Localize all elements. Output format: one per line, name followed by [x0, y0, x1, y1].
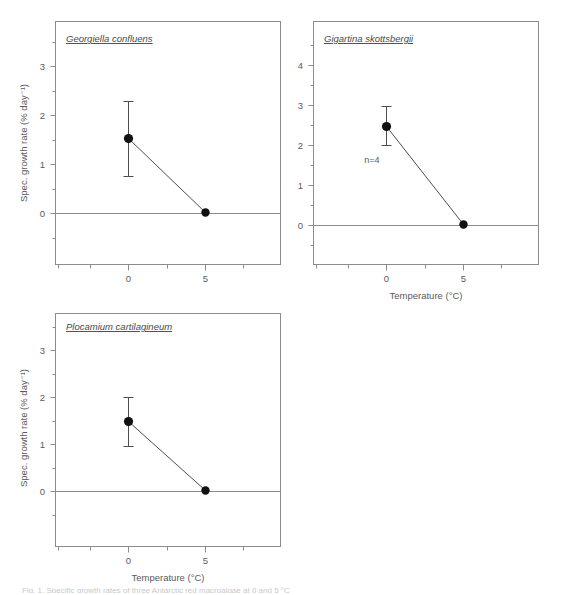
panel-georgiella-confluens: 0 1 2 3 0 5 Spec. growth rate (% day⁻¹) … [18, 22, 281, 285]
panel-b-yticklabel-2: 2 [298, 140, 303, 151]
panel-a-yticklabel-1: 1 [40, 159, 45, 170]
panel-c-yticklabel-2: 2 [40, 392, 45, 403]
panel-b-yticklabel-1: 1 [298, 180, 303, 191]
panel-b-yticklabel-4: 4 [298, 60, 303, 71]
panel-c-xticklabel-5: 5 [203, 555, 208, 566]
panel-a-datapoint-5 [201, 208, 209, 216]
panel-a-yticklabel-2: 2 [40, 110, 45, 121]
panel-a-datapoint-0 [124, 134, 133, 143]
panel-b-xaxis-title: Temperature (°C) [390, 290, 463, 301]
panel-b-yticklabel-0: 0 [298, 220, 303, 231]
panel-a-xticklabel-5: 5 [203, 273, 208, 284]
panel-a-yticklabel-0: 0 [40, 208, 45, 219]
panel-c-xticklabel-0: 0 [126, 555, 131, 566]
panel-c-yticklabel-3: 3 [40, 345, 45, 356]
panel-b-xticklabel-5: 5 [461, 273, 466, 284]
panel-c-title: Plocamium cartilagineum [66, 321, 172, 332]
panel-b-annotation-n: n=4 [364, 155, 379, 165]
panel-gigartina-skottsbergii: 0 1 2 3 4 0 5 Temperature (°C) Gigartina… [298, 22, 539, 302]
panel-c-yticklabel-1: 1 [40, 439, 45, 450]
panel-a-title: Georgiella confluens [66, 33, 153, 44]
figure-canvas: 0 1 2 3 0 5 Spec. growth rate (% day⁻¹) … [0, 0, 564, 595]
panel-c-frame [56, 314, 281, 547]
panel-c-datapoint-0 [124, 417, 133, 426]
panel-b-yticklabel-3: 3 [298, 100, 303, 111]
panel-a-yaxis-title: Spec. growth rate (% day⁻¹) [18, 84, 29, 202]
panel-a-frame [56, 22, 281, 265]
panel-a-xticklabel-0: 0 [126, 273, 131, 284]
figure-caption-fragment: Fig. 1. Specific growth rates of three A… [22, 586, 522, 593]
panel-b-frame [314, 22, 539, 265]
panel-c-yticklabel-0: 0 [40, 486, 45, 497]
panel-b-xticklabel-0: 0 [384, 273, 389, 284]
panel-b-datapoint-0 [382, 122, 391, 131]
panel-c-yaxis-title: Spec. growth rate (% day⁻¹) [18, 369, 29, 487]
panel-b-title: Gigartina skottsbergii [324, 33, 414, 44]
panel-c-xaxis-title: Temperature (°C) [132, 572, 205, 583]
panel-b-datapoint-5 [459, 220, 467, 228]
panel-a-yticklabel-3: 3 [40, 61, 45, 72]
panel-c-datapoint-5 [201, 486, 209, 494]
panel-plocamium-cartilagineum: 0 1 2 3 0 5 Temperature (°C) Spec. growt… [18, 314, 281, 584]
